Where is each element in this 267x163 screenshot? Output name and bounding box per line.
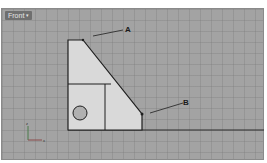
- callout-a-label: A: [125, 25, 131, 34]
- hole-circle[interactable]: [73, 106, 87, 120]
- callout-a-leader: [93, 30, 123, 36]
- callout-b-label: B: [183, 98, 189, 107]
- vertex-a: [82, 39, 84, 41]
- x-axis-label: x: [43, 138, 45, 143]
- vertex-b: [141, 113, 144, 116]
- z-axis-label: z: [26, 121, 28, 126]
- callout-b-leader: [150, 103, 183, 113]
- cad-drawing: A B z x: [0, 0, 267, 163]
